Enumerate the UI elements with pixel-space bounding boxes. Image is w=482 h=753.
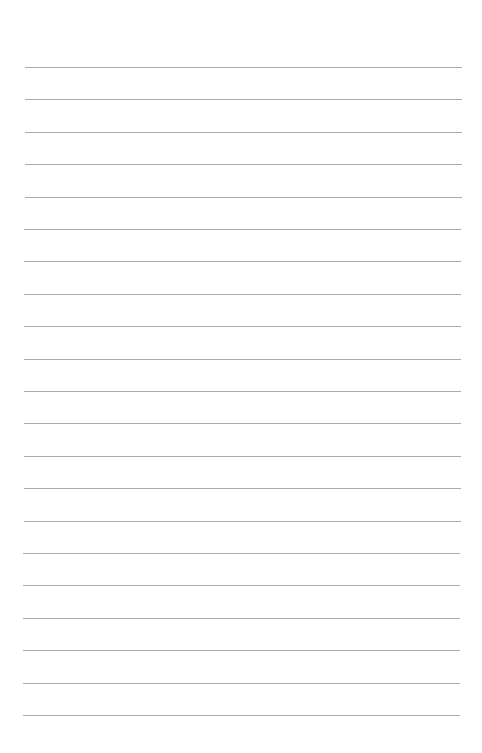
ruled-line bbox=[25, 99, 462, 100]
ruled-line bbox=[24, 521, 461, 522]
ruled-line bbox=[24, 326, 461, 327]
ruled-line bbox=[24, 229, 461, 230]
ruled-line bbox=[24, 423, 461, 424]
ruled-line bbox=[23, 650, 460, 651]
ruled-line bbox=[24, 359, 461, 360]
ruled-line bbox=[23, 618, 460, 619]
ruled-line bbox=[23, 715, 460, 716]
ruled-line bbox=[25, 132, 462, 133]
ruled-line bbox=[24, 294, 461, 295]
ruled-line bbox=[25, 67, 462, 68]
ruled-line bbox=[23, 553, 460, 554]
lined-page bbox=[0, 0, 482, 753]
ruled-line bbox=[24, 456, 461, 457]
ruled-line bbox=[23, 683, 460, 684]
ruled-line bbox=[25, 164, 462, 165]
ruled-line bbox=[24, 261, 461, 262]
ruled-line bbox=[24, 391, 461, 392]
ruled-line bbox=[24, 488, 461, 489]
ruled-line bbox=[23, 585, 460, 586]
ruled-line bbox=[25, 197, 462, 198]
